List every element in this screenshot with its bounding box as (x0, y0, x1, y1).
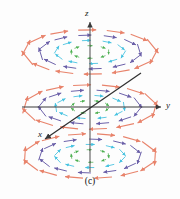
field-arrow (97, 90, 110, 91)
field-arrow (95, 112, 100, 113)
field-arrow (73, 85, 91, 86)
field-arrow (127, 88, 144, 94)
field-arrow (105, 164, 114, 166)
field-arrow (100, 151, 105, 152)
field-arrow (124, 163, 136, 168)
field-arrow (131, 34, 148, 41)
field-arrow (134, 98, 142, 108)
field-arrow (94, 95, 103, 96)
field-arrow (78, 172, 91, 173)
field-arrow (70, 123, 83, 124)
field-arrow (29, 35, 45, 43)
field-arrow (98, 117, 107, 118)
field-arrow (119, 156, 125, 162)
field-arrow (44, 143, 56, 148)
z-axis-label: z (85, 9, 89, 18)
field-arrow (137, 152, 141, 164)
field-arrow (102, 85, 120, 87)
field-arrow (101, 56, 106, 58)
field-arrow (124, 39, 136, 45)
field-arrow (107, 30, 125, 33)
field-arrow (101, 159, 106, 161)
field-arrow (77, 118, 86, 119)
field-arrow (50, 31, 68, 34)
y-axis-label: y (166, 101, 170, 110)
field-arrow (96, 123, 109, 124)
field-arrow (105, 108, 109, 111)
field-arrow (142, 142, 156, 153)
field-arrow (65, 164, 74, 166)
field-arrow (121, 51, 126, 59)
field-arrow (54, 168, 67, 171)
field-arrow (46, 87, 64, 91)
field-arrow (138, 114, 154, 123)
field-arrow (123, 102, 124, 111)
field-arrow (97, 134, 115, 136)
field-arrow (105, 103, 109, 106)
field-arrow (106, 146, 115, 148)
field-arrow (123, 137, 140, 142)
field-arrow (112, 98, 120, 102)
field-arrow (63, 42, 72, 45)
field-arrow (33, 63, 50, 70)
field-arrow (63, 66, 76, 68)
field-arrow (116, 124, 134, 128)
field-arrow (80, 101, 85, 102)
field-arrow (108, 153, 109, 158)
field-arrow (36, 120, 53, 126)
field-arrow (130, 55, 140, 63)
field-arrow (27, 91, 43, 100)
field-arrow (134, 61, 150, 69)
x-axis-label: x (38, 130, 42, 139)
field-arrow (44, 59, 56, 65)
field-arrow (103, 41, 112, 43)
field-arrow (55, 37, 68, 40)
field-arrow (39, 148, 43, 160)
field-arrow (109, 59, 118, 62)
field-arrow (94, 101, 99, 102)
field-arrow (57, 99, 65, 103)
figure-caption: (c) (0, 176, 180, 186)
field-arrow (64, 140, 77, 142)
field-arrow (71, 103, 75, 106)
field-arrow (119, 117, 131, 121)
field-arrow (54, 149, 60, 155)
field-arrow (42, 136, 59, 140)
field-arrow (75, 160, 80, 161)
field-arrow (101, 47, 106, 49)
field-arrow (150, 48, 159, 64)
field-arrow (39, 48, 43, 60)
field-arrow (74, 47, 79, 49)
field-arrow (55, 103, 56, 112)
field-arrow (119, 93, 131, 97)
field-arrow (137, 44, 141, 56)
vector-field-figure: z y x (c) (0, 0, 180, 199)
field-arrow (55, 54, 62, 59)
field-arrow (119, 149, 125, 156)
field-arrow (39, 159, 49, 167)
field-arrow (71, 90, 84, 91)
field-arrow (71, 108, 75, 111)
field-arrow (134, 106, 142, 116)
field-arrow (140, 161, 155, 171)
field-arrow (40, 170, 57, 175)
field-arrow (40, 41, 50, 49)
field-arrow (89, 129, 107, 130)
field-arrow (73, 96, 82, 97)
field-arrow (89, 139, 102, 140)
field-arrow (38, 106, 46, 116)
field-arrow (68, 134, 86, 135)
field-arrow (22, 40, 31, 56)
field-arrow (69, 61, 78, 63)
field-arrow (113, 141, 126, 144)
field-arrow (49, 93, 61, 97)
field-arrow (25, 141, 40, 151)
field-arrow (112, 70, 130, 73)
vector-field-canvas (0, 0, 180, 199)
field-arrow (54, 156, 60, 163)
field-arrow (59, 112, 67, 116)
field-arrow (38, 98, 46, 108)
field-arrow (74, 56, 79, 58)
field-arrow (115, 111, 123, 115)
field-arrow (118, 45, 125, 50)
